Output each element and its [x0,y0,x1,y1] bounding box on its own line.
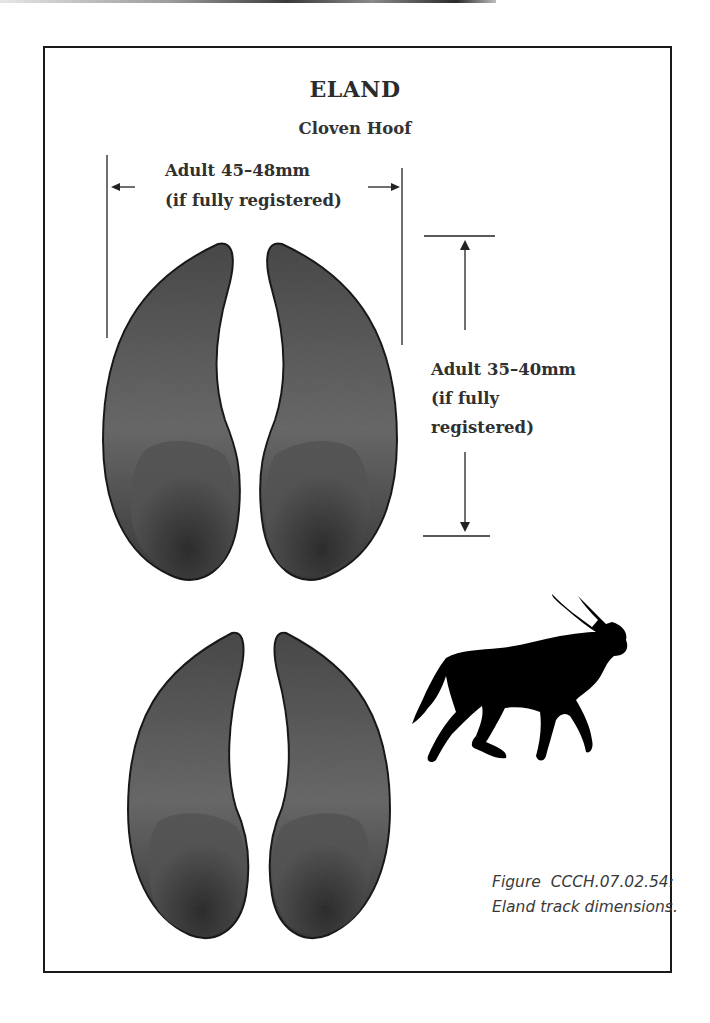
width-label-line1: Adult 45–48mm [165,158,310,184]
caption-line1: Figure CCCH.07.02.54: [492,870,678,895]
caption-line2: Eland track dimensions. [492,895,678,920]
length-label-line2: (if fully [431,386,499,412]
length-label-line3: registered) [431,415,534,441]
cloven-hoof-track-lower [128,633,390,938]
cloven-hoof-track-upper [103,244,397,580]
width-label-line2: (if fully registered) [165,188,342,214]
length-label-line1: Adult 35–40mm [431,357,576,383]
eland-silhouette-icon [412,594,627,762]
figure-caption: Figure CCCH.07.02.54: Eland track dimens… [492,870,678,920]
